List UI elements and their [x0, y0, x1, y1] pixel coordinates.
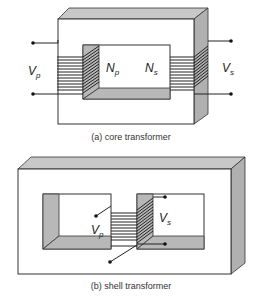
shell-secondary-terminal-bottom [163, 242, 167, 246]
core-secondary-terminal-top [229, 39, 233, 43]
core-primary-terminal-bottom [31, 92, 35, 96]
core-window-floor [83, 88, 170, 99]
core-caption: (a) core transformer [91, 132, 171, 142]
core-vp-label: Vp [28, 64, 41, 80]
core-primary-lead-top [33, 40, 58, 43]
shell-secondary-terminal-top [163, 195, 167, 199]
transformer-diagram: Vp Np Ns Vs (a) core transformer [0, 0, 263, 306]
shell-primary-terminal-top [94, 214, 98, 218]
shell-top-face [18, 157, 245, 169]
core-secondary-terminal-bottom [229, 92, 233, 96]
shell-transformer: Vp Vs (b) shell transformer [18, 157, 245, 291]
shell-caption: (b) shell transformer [91, 281, 172, 291]
core-top-face [58, 8, 208, 19]
core-vs-label: Vs [222, 61, 234, 77]
core-primary-terminal-top [31, 41, 35, 45]
shell-primary-terminal-bottom [108, 260, 112, 264]
core-transformer: Vp Np Ns Vs (a) core transformer [28, 8, 234, 142]
shell-side-face [231, 157, 245, 274]
